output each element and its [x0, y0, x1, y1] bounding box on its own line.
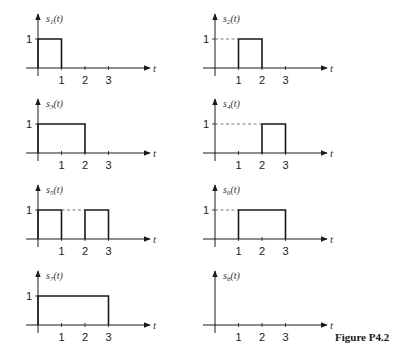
signal-plot-6: t1231s6(t): [203, 184, 334, 257]
x-tick-label: 2: [82, 245, 88, 257]
x-tick-label: 1: [59, 331, 65, 343]
y-level-label: 1: [203, 204, 209, 216]
signal-plot-7: t1231s7(t): [26, 270, 157, 343]
x-tick-label: 3: [106, 245, 112, 257]
x-tick-label: 1: [59, 245, 65, 257]
signal-plot-4: t1231s4(t): [203, 98, 334, 171]
x-tick-label: 1: [236, 159, 242, 171]
x-tick-label: 3: [283, 331, 289, 343]
x-axis-label: t: [330, 319, 334, 331]
signal-name-label: s7(t): [46, 270, 64, 283]
x-tick-label: 1: [59, 159, 65, 171]
signal-plot-3: t1231s3(t): [26, 98, 157, 171]
x-tick-label: 3: [106, 74, 112, 86]
x-axis-label: t: [153, 62, 157, 74]
x-axis-label: t: [330, 147, 334, 159]
signal-plot-8: t123s8(t): [203, 270, 334, 343]
x-tick-label: 3: [283, 245, 289, 257]
signal-plot-1: t1231s1(t): [26, 13, 157, 86]
signal-name-label: s1(t): [46, 13, 64, 26]
x-tick-label: 1: [236, 245, 242, 257]
x-tick-label: 3: [106, 331, 112, 343]
x-tick-label: 3: [106, 159, 112, 171]
signal-plot-2: t1231s2(t): [203, 13, 334, 86]
y-level-label: 1: [26, 204, 32, 216]
signal-name-label: s3(t): [46, 98, 64, 111]
signal-name-label: s8(t): [223, 270, 241, 283]
x-tick-label: 2: [82, 74, 88, 86]
pulse-waveform: [262, 124, 286, 153]
x-tick-label: 2: [259, 159, 265, 171]
x-axis-label: t: [330, 62, 334, 74]
y-level-label: 1: [203, 33, 209, 45]
signal-name-label: s5(t): [46, 184, 64, 197]
y-level-label: 1: [26, 33, 32, 45]
x-tick-label: 2: [259, 245, 265, 257]
x-tick-label: 1: [236, 331, 242, 343]
pulse-waveform: [38, 39, 62, 68]
x-axis-label: t: [153, 319, 157, 331]
x-tick-label: 3: [283, 74, 289, 86]
x-axis-label: t: [153, 233, 157, 245]
x-tick-label: 2: [82, 331, 88, 343]
pulse-waveform: [239, 210, 286, 239]
signal-name-label: s2(t): [223, 13, 241, 26]
y-level-label: 1: [26, 118, 32, 130]
pulse-waveform: [239, 39, 263, 68]
figure-canvas: t1231s1(t)t1231s2(t)t1231s3(t)t1231s4(t)…: [0, 0, 400, 357]
x-tick-label: 2: [82, 159, 88, 171]
signal-name-label: s6(t): [223, 184, 241, 197]
signal-name-label: s4(t): [223, 98, 241, 111]
plots-group: t1231s1(t)t1231s2(t)t1231s3(t)t1231s4(t)…: [26, 13, 334, 343]
y-level-label: 1: [203, 118, 209, 130]
x-tick-label: 1: [236, 74, 242, 86]
x-tick-label: 1: [59, 74, 65, 86]
x-tick-label: 2: [259, 74, 265, 86]
pulse-waveform: [85, 210, 109, 239]
signal-plot-5: t1231s5(t): [26, 184, 157, 257]
x-tick-label: 2: [259, 331, 265, 343]
figure-label: Figure P4.2: [335, 331, 390, 343]
x-axis-label: t: [153, 147, 157, 159]
pulse-waveform: [38, 296, 109, 325]
y-level-label: 1: [26, 290, 32, 302]
x-axis-label: t: [330, 233, 334, 245]
x-tick-label: 3: [283, 159, 289, 171]
pulse-waveform: [38, 210, 62, 239]
pulse-waveform: [38, 124, 85, 153]
